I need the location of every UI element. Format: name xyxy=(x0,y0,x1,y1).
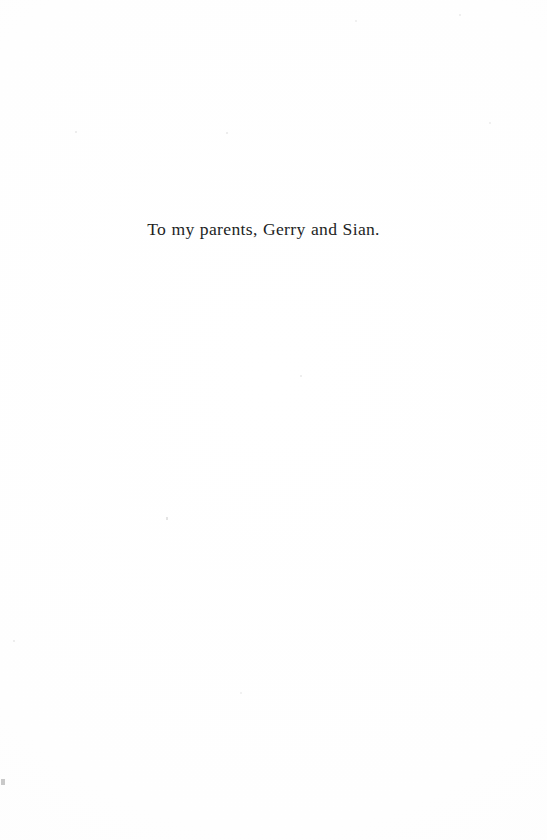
dedication-block: To my parents, Gerry and Sian. xyxy=(0,216,527,242)
scan-speck xyxy=(240,692,242,694)
paper-texture xyxy=(0,0,547,840)
scanned-page: To my parents, Gerry and Sian. xyxy=(0,0,547,840)
dedication-text: To my parents, Gerry and Sian. xyxy=(147,216,380,242)
scan-speck xyxy=(226,132,228,134)
scan-speck xyxy=(355,20,357,22)
scan-speck xyxy=(166,517,168,520)
scan-speck xyxy=(1,779,5,785)
scan-speck xyxy=(300,375,302,377)
scan-speck xyxy=(489,122,491,124)
scan-speck xyxy=(13,640,15,642)
scan-speck xyxy=(459,14,461,16)
scan-speck xyxy=(75,131,77,133)
